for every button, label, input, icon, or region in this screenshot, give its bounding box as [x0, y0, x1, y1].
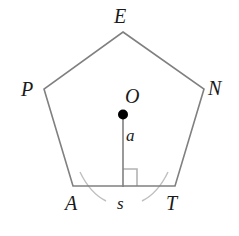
side-length-label: s — [117, 195, 124, 212]
vertex-label-t: T — [166, 193, 177, 213]
vertex-label-n: N — [208, 78, 221, 98]
pentagon-outline — [44, 32, 204, 186]
vertex-label-p: P — [21, 79, 33, 99]
vertex-label-e: E — [114, 6, 126, 26]
center-label-o: O — [125, 86, 139, 106]
center-point-dot — [118, 110, 128, 120]
apothem-label: a — [126, 127, 135, 144]
geometry-figure: E N T A P O a s — [0, 0, 239, 236]
vertex-label-a: A — [65, 193, 77, 213]
right-angle-mark — [123, 169, 137, 186]
